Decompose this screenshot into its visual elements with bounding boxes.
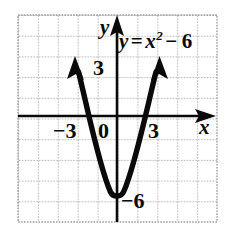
y-axis-label: y	[100, 17, 109, 38]
origin-label: 0	[98, 120, 109, 142]
equation-equals: =	[129, 29, 145, 53]
x-axis-label: x	[199, 117, 210, 138]
x-tick-label-negative-3: −3	[53, 120, 77, 142]
vertex-label-negative-6: −6	[121, 190, 145, 212]
x-tick-label-3: 3	[148, 120, 159, 142]
y-tick-label-3: 3	[93, 57, 104, 79]
equation-variable: x	[145, 29, 156, 53]
equation-minus-sign: −	[163, 29, 179, 53]
equation-lhs: y	[119, 29, 129, 53]
coordinate-plane-svg	[0, 0, 232, 239]
equation-label: y=x2−6	[119, 29, 195, 52]
graph-figure: y x y=x2−6 3 −3 0 3 −6	[0, 0, 232, 239]
equation-constant: 6	[180, 29, 195, 53]
